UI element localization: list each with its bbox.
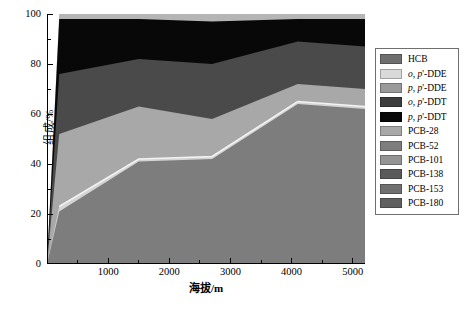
- legend-swatch-icon: [380, 69, 402, 79]
- legend-item[interactable]: o, p'-DDT: [380, 95, 455, 109]
- legend-swatch-icon: [380, 184, 402, 194]
- legend-rows: HCBo, p'-DDEp, p'-DDEo, p'-DDTp, p'-DDTP…: [380, 52, 455, 210]
- legend-swatch-icon: [380, 112, 402, 122]
- x-tick-label: 2000: [146, 267, 192, 277]
- y-tick-label: 60: [1, 109, 41, 119]
- x-tick-label: 4000: [269, 267, 315, 277]
- legend-item[interactable]: PCB-52: [380, 138, 455, 152]
- legend-swatch-icon: [380, 83, 402, 93]
- legend-item-label: PCB-153: [408, 184, 443, 194]
- legend-swatch-icon: [380, 126, 402, 136]
- y-tick-label: 40: [1, 159, 41, 169]
- legend-item-label: p, p'-DDE: [408, 83, 447, 93]
- x-tick-label: 3000: [207, 267, 253, 277]
- legend-item[interactable]: p, p'-DDT: [380, 110, 455, 124]
- y-axis-title: 组成/%: [40, 92, 56, 162]
- legend-item[interactable]: PCB-153: [380, 182, 455, 196]
- legend-item[interactable]: PCB-101: [380, 153, 455, 167]
- legend-swatch-icon: [380, 97, 402, 107]
- legend-item-label: PCB-138: [408, 169, 443, 179]
- legend-item-label: PCB-101: [408, 155, 443, 165]
- legend-swatch-icon: [380, 155, 402, 165]
- legend-item-label: p, p'-DDT: [408, 112, 447, 122]
- y-tick-label: 80: [1, 59, 41, 69]
- legend-item[interactable]: p, p'-DDE: [380, 81, 455, 95]
- legend-swatch-icon: [380, 54, 402, 64]
- legend-item-label: PCB-28: [408, 126, 439, 136]
- legend-item-label: HCB: [408, 54, 428, 64]
- y-tick-label: 20: [1, 209, 41, 219]
- legend-item-label: o, p'-DDT: [408, 97, 447, 107]
- x-tick-label: 1000: [85, 267, 131, 277]
- x-tick-label: 5000: [330, 267, 376, 277]
- figure-root: 组成/% 海拔/m 020406080100 10002000300040005…: [0, 0, 465, 318]
- legend-item-label: PCB-52: [408, 141, 439, 151]
- area-series-group: [47, 14, 365, 264]
- legend-swatch-icon: [380, 169, 402, 179]
- legend-box: HCBo, p'-DDEp, p'-DDEo, p'-DDTp, p'-DDTP…: [375, 48, 459, 215]
- legend-swatch-icon: [380, 141, 402, 151]
- legend-item[interactable]: PCB-138: [380, 167, 455, 181]
- legend-item[interactable]: HCB: [380, 52, 455, 66]
- legend-item[interactable]: PCB-180: [380, 196, 455, 210]
- y-tick-label: 100: [1, 9, 41, 19]
- legend-item[interactable]: o, p'-DDE: [380, 66, 455, 80]
- legend-item-label: PCB-180: [408, 198, 443, 208]
- y-tick-label: 0: [1, 259, 41, 269]
- legend-swatch-icon: [380, 198, 402, 208]
- stacked-area-svg: [47, 14, 365, 264]
- legend-item-label: o, p'-DDE: [408, 69, 447, 79]
- legend-item[interactable]: PCB-28: [380, 124, 455, 138]
- plot-area: 组成/% 海拔/m 020406080100 10002000300040005…: [47, 14, 365, 264]
- x-axis-title: 海拔/m: [47, 279, 365, 295]
